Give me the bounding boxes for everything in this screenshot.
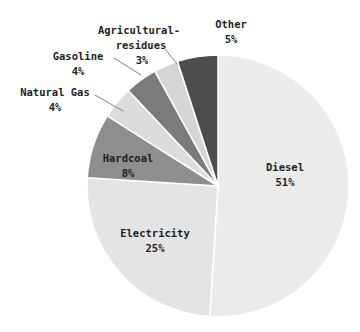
pie-label-hardcoal-line2: 8% [122,167,135,179]
pie-chart-figure: Diesel51%Electricity25%Hardcoal8%Natural… [0,0,360,332]
pie-label-gasoline-line1: Gasoline [53,50,104,62]
pie-label-electricity-line1: Electricity [120,227,190,239]
pie-label-natural-gas-line1: Natural Gas [20,86,90,98]
pie-label-natural-gas-line2: 4% [49,101,62,113]
pie-label-agricultural-residues-line1: Agricultural- [98,24,180,36]
pie-label-agricultural-residues-line2: residues [116,39,167,51]
pie-label-diesel-line1: Diesel [266,161,304,173]
pie-chart-svg: Diesel51%Electricity25%Hardcoal8%Natural… [0,0,360,332]
pie-label-diesel-line2: 51% [276,176,296,188]
leader-line-agricultural-residues [165,49,177,64]
pie-label-other-line1: Other [215,18,247,30]
pie-label-hardcoal-line1: Hardcoal [103,152,154,164]
pie-label-agricultural-residues-line3: 3% [136,54,149,66]
pie-label-other-line2: 5% [225,33,238,45]
pie-label-gasoline-line2: 4% [72,65,85,77]
pie-label-electricity-line2: 25% [146,242,166,254]
